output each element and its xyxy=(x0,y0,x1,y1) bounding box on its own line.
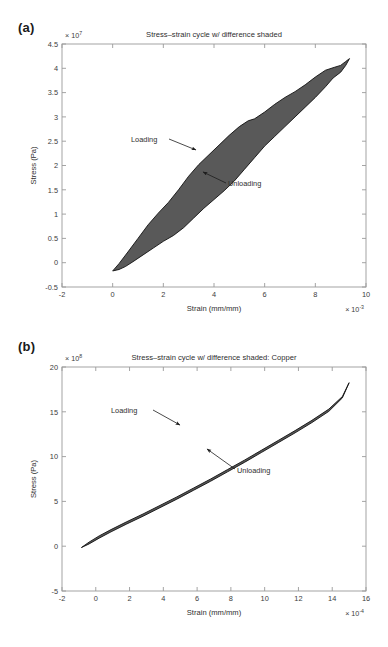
x-axis-exponent: × 10-3 xyxy=(345,304,364,314)
y-tick-label: 15 xyxy=(50,408,58,417)
x-tick-label: -2 xyxy=(59,594,66,603)
x-tick-label: 16 xyxy=(362,594,370,603)
y-tick-label: 2.5 xyxy=(48,137,58,146)
annotation-arrow xyxy=(207,449,235,469)
x-axis-exponent: × 10-4 xyxy=(345,608,364,618)
x-tick-label: 4 xyxy=(161,594,165,603)
annotation-loading: Loading xyxy=(111,406,180,425)
x-tick-label: 12 xyxy=(294,594,302,603)
y-tick-label: 5 xyxy=(54,497,58,506)
y-tick-label: 1 xyxy=(54,210,58,219)
panel-label-a: (a) xyxy=(18,20,35,35)
annotation-arrow xyxy=(169,139,196,150)
x-tick-label: 0 xyxy=(111,290,115,299)
y-tick-label: -5 xyxy=(51,587,58,596)
panel-label-b: (b) xyxy=(18,339,35,354)
x-axis-label: Strain (mm/mm) xyxy=(187,304,242,313)
chart-title: Stress–strain cycle w/ difference shaded xyxy=(146,30,282,39)
y-tick-label: 4.5 xyxy=(48,40,58,49)
y-tick-label: 0 xyxy=(54,542,58,551)
y-tick-label: 0.5 xyxy=(48,234,58,243)
x-tick-label: 2 xyxy=(127,594,131,603)
y-tick-label: 2 xyxy=(54,161,58,170)
x-tick-label: 10 xyxy=(261,594,269,603)
y-tick-label: 20 xyxy=(50,363,58,372)
x-tick-label: 4 xyxy=(212,290,216,299)
y-tick-label: 0 xyxy=(54,258,58,267)
y-tick-label: 4 xyxy=(54,64,58,73)
shaded-difference-region xyxy=(113,59,350,271)
figure-panel-a: (a) -20246810-0.500.511.522.533.544.5Str… xyxy=(0,0,388,320)
y-axis-exponent: × 107 xyxy=(65,30,82,40)
figure-panel-b: (b) -20246810121416-505101520Stress–stra… xyxy=(0,325,388,647)
annotation-label: Loading xyxy=(111,406,137,415)
x-tick-label: 6 xyxy=(195,594,199,603)
y-tick-label: 3 xyxy=(54,113,58,122)
annotation-label: Unloading xyxy=(228,179,261,188)
y-tick-label: -0.5 xyxy=(45,283,58,292)
x-tick-label: 0 xyxy=(94,594,98,603)
y-tick-label: 3.5 xyxy=(48,88,58,97)
annotation-label: Loading xyxy=(131,135,157,144)
chart-a: -20246810-0.500.511.522.533.544.5Stress–… xyxy=(0,0,388,320)
chart-b: -20246810121416-505101520Stress–strain c… xyxy=(0,325,388,647)
x-tick-label: 6 xyxy=(263,290,267,299)
y-tick-label: 10 xyxy=(50,452,58,461)
annotation-label: Unloading xyxy=(237,466,270,475)
y-axis-exponent: × 108 xyxy=(65,353,82,363)
y-axis-label: Stress (Pa) xyxy=(29,460,38,498)
x-tick-label: 10 xyxy=(362,290,370,299)
annotation-loading: Loading xyxy=(131,135,196,150)
x-tick-label: -2 xyxy=(59,290,66,299)
y-tick-label: 1.5 xyxy=(48,186,58,195)
x-tick-label: 8 xyxy=(229,594,233,603)
x-axis-label: Strain (mm/mm) xyxy=(187,608,242,617)
x-tick-label: 14 xyxy=(328,594,336,603)
annotation-arrow xyxy=(153,410,180,425)
x-tick-label: 2 xyxy=(161,290,165,299)
chart-title: Stress–strain cycle w/ difference shaded… xyxy=(132,353,297,362)
x-tick-label: 8 xyxy=(313,290,317,299)
y-axis-label: Stress (Pa) xyxy=(29,146,38,184)
